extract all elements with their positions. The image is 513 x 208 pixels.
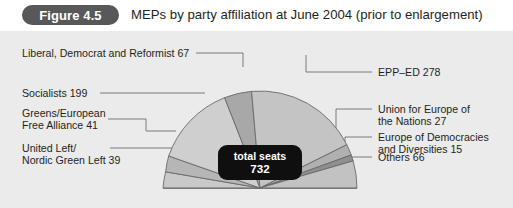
label-uen-line2: the Nations 27 — [378, 115, 446, 128]
figure-title: MEPs by party affiliation at June 2004 (… — [131, 5, 483, 25]
leader-epp — [306, 55, 372, 72]
total-seats-value: 732 — [250, 162, 269, 175]
total-seats-badge: total seats 732 — [218, 145, 302, 180]
label-edd-line1: Europe of Democracies — [378, 131, 489, 144]
total-seats-caption: total seats — [234, 150, 286, 162]
label-socialists: Socialists 199 — [22, 87, 87, 100]
chart-panel: Liberal, Democrat and Reformist 67 Socia… — [0, 31, 513, 208]
figure-header: Figure 4.5 MEPs by party affiliation at … — [0, 0, 513, 30]
label-united-left-line2: Nordic Green Left 39 — [22, 154, 120, 167]
figure-number-badge: Figure 4.5 — [22, 5, 119, 25]
label-epp: EPP–ED 278 — [378, 66, 440, 79]
leader-greens — [108, 119, 176, 131]
label-greens-line1: Greens/European — [22, 107, 106, 120]
label-liberal: Liberal, Democrat and Reformist 67 — [22, 47, 189, 60]
figure-root: Figure 4.5 MEPs by party affiliation at … — [0, 0, 513, 208]
label-others: Others 66 — [378, 151, 425, 164]
label-united-left-line1: United Left/ — [22, 142, 76, 155]
label-uen-line1: Union for Europe of — [378, 103, 470, 116]
leader-liberal — [196, 53, 243, 67]
label-greens-line2: Free Alliance 41 — [22, 119, 98, 132]
